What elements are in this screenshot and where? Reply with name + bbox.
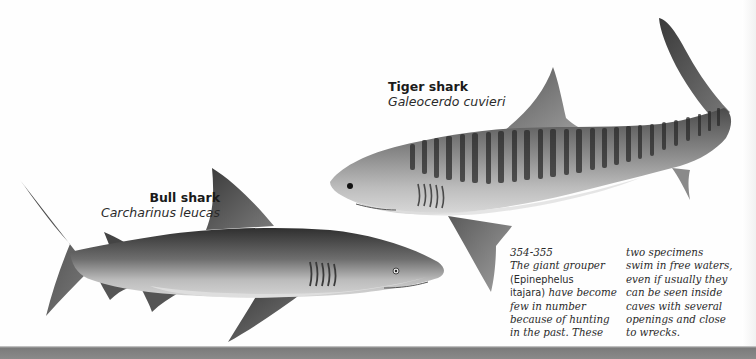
caption-reference: 354-355 <box>510 246 628 259</box>
caption-line: because of hunting <box>510 313 628 326</box>
bull-shark-common-name: Bull shark <box>90 190 220 205</box>
caption-species-name: (Epinephelus <box>510 273 628 286</box>
book-page: Tiger shark Galeocerdo cuvieri Bull shar… <box>0 0 756 346</box>
caption-species-name: itajara) <box>510 287 545 298</box>
caption-line: can be seen inside <box>626 286 746 299</box>
caption-column-2: two specimens swim in free waters, even … <box>626 246 746 340</box>
page-bottom-edge <box>0 346 756 359</box>
caption-text: have become <box>545 286 617 298</box>
tiger-shark-label: Tiger shark Galeocerdo cuvieri <box>388 79 505 109</box>
tiger-shark-scientific-name: Galeocerdo cuvieri <box>388 94 505 109</box>
caption-line: itajara) have become <box>510 286 628 299</box>
caption-line: even if usually they <box>626 273 746 286</box>
caption-line: The giant grouper <box>510 259 628 272</box>
caption-line: in the past. These <box>510 326 628 339</box>
caption-line: caves with several <box>626 300 746 313</box>
tiger-shark-common-name: Tiger shark <box>388 79 505 94</box>
caption-line: openings and close <box>626 313 746 326</box>
bull-shark-label: Bull shark Carcharinus leucas <box>90 190 220 220</box>
caption-line: swim in free waters, <box>626 259 746 272</box>
caption-column-1: 354-355 The giant grouper (Epinephelus i… <box>510 246 628 340</box>
caption-line: two specimens <box>626 246 746 259</box>
caption-line: few in number <box>510 300 628 313</box>
bull-shark-scientific-name: Carcharinus leucas <box>90 205 220 220</box>
page-right-margin <box>742 0 756 346</box>
caption-line: to wrecks. <box>626 326 746 339</box>
